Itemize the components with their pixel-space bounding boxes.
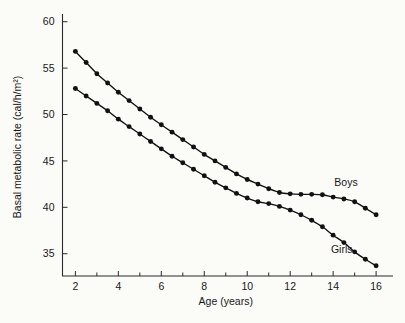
x-tick-label-2: 2 <box>72 280 78 292</box>
series-label-boys: Boys <box>334 176 357 188</box>
data-point-girls-8 <box>202 173 207 178</box>
data-point-boys-4 <box>116 90 121 95</box>
x-tick-label-6: 6 <box>158 280 164 292</box>
basal-metabolic-rate-chart: 354045505560246810121416Age (years)Basal… <box>0 0 405 323</box>
data-point-girls-10.5 <box>256 199 261 204</box>
data-point-girls-5.5 <box>148 139 153 144</box>
data-point-boys-7 <box>180 137 185 142</box>
data-point-girls-16 <box>374 263 379 268</box>
data-point-boys-14.5 <box>341 197 346 202</box>
data-point-girls-14 <box>331 233 336 238</box>
data-point-boys-14 <box>331 195 336 200</box>
data-point-girls-2 <box>73 86 78 91</box>
series-label-girls: Girls <box>331 243 353 255</box>
data-point-boys-4.5 <box>127 98 132 103</box>
x-tick-label-14: 14 <box>327 280 339 292</box>
series-girls <box>73 86 379 268</box>
data-point-boys-13.5 <box>320 192 325 197</box>
data-point-girls-3 <box>94 101 99 106</box>
data-point-boys-15.5 <box>363 206 368 211</box>
data-point-boys-11 <box>266 186 271 191</box>
series-boys <box>73 49 379 217</box>
data-point-boys-8.5 <box>213 158 218 163</box>
data-point-girls-7 <box>180 160 185 165</box>
data-point-boys-9.5 <box>234 171 239 176</box>
data-point-boys-5.5 <box>148 115 153 120</box>
y-tick-label-55: 55 <box>43 62 55 74</box>
data-point-boys-8 <box>202 152 207 157</box>
data-point-boys-16 <box>374 212 379 217</box>
data-point-boys-10 <box>245 177 250 182</box>
data-point-boys-6 <box>159 122 164 127</box>
data-point-girls-4 <box>116 117 121 122</box>
data-point-boys-3.5 <box>105 81 110 86</box>
chart-canvas: 354045505560246810121416Age (years)Basal… <box>0 0 405 323</box>
y-tick-label-60: 60 <box>43 15 55 27</box>
data-point-girls-3.5 <box>105 108 110 113</box>
data-point-girls-13 <box>309 218 314 223</box>
data-point-girls-9.5 <box>234 191 239 196</box>
x-tick-label-8: 8 <box>201 280 207 292</box>
x-tick-label-10: 10 <box>241 280 253 292</box>
data-point-girls-11.5 <box>277 204 282 209</box>
data-point-boys-12 <box>288 191 293 196</box>
data-point-boys-7.5 <box>191 145 196 150</box>
data-point-girls-6 <box>159 146 164 151</box>
axis-spines <box>63 14 394 276</box>
x-tick-label-16: 16 <box>370 280 382 292</box>
data-point-girls-12 <box>288 208 293 213</box>
data-point-girls-15 <box>352 249 357 254</box>
data-point-girls-11 <box>266 201 271 206</box>
data-point-girls-15.5 <box>363 257 368 262</box>
x-axis-title: Age (years) <box>199 295 253 307</box>
x-tick-label-12: 12 <box>284 280 296 292</box>
y-tick-label-45: 45 <box>43 155 55 167</box>
y-tick-label-40: 40 <box>43 201 55 213</box>
data-point-boys-15 <box>352 199 357 204</box>
data-point-girls-7.5 <box>191 167 196 172</box>
data-point-boys-9 <box>223 165 228 170</box>
data-point-girls-13.5 <box>320 224 325 229</box>
data-point-boys-3 <box>94 71 99 76</box>
data-point-girls-5 <box>137 132 142 137</box>
data-point-boys-10.5 <box>256 182 261 187</box>
data-point-girls-12.5 <box>298 212 303 217</box>
data-point-girls-4.5 <box>127 124 132 129</box>
x-tick-label-4: 4 <box>115 280 121 292</box>
data-point-girls-2.5 <box>84 94 89 99</box>
data-point-boys-5 <box>137 107 142 112</box>
data-point-girls-9 <box>223 185 228 190</box>
y-axis-title: Basal metabolic rate (cal/h/m²) <box>11 76 23 218</box>
y-tick-label-50: 50 <box>43 108 55 120</box>
y-tick-label-35: 35 <box>43 247 55 259</box>
data-point-girls-6.5 <box>170 154 175 159</box>
data-point-girls-8.5 <box>213 180 218 185</box>
data-point-boys-13 <box>309 192 314 197</box>
data-point-boys-6.5 <box>170 130 175 135</box>
data-point-boys-11.5 <box>277 190 282 195</box>
data-point-boys-2.5 <box>84 60 89 65</box>
data-point-boys-12.5 <box>298 192 303 197</box>
series-line-girls <box>75 89 376 266</box>
data-point-boys-2 <box>73 49 78 54</box>
data-point-girls-10 <box>245 196 250 201</box>
